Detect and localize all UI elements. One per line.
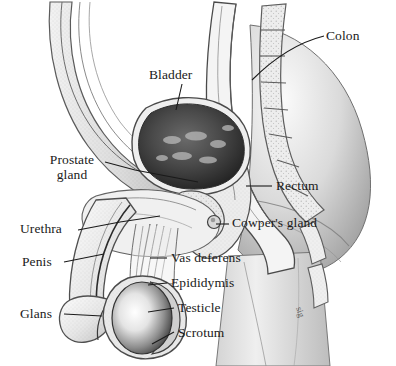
- label-glans: Glans: [20, 307, 52, 321]
- structure-cowpers-gland: [208, 216, 221, 229]
- label-scrotum: Scrotum: [178, 326, 224, 340]
- label-testicle: Testicle: [178, 301, 221, 315]
- label-vas-deferens: Vas deferens: [171, 251, 241, 265]
- label-cowpers-gland: Cowper's gland: [232, 216, 317, 230]
- label-urethra: Urethra: [20, 222, 62, 236]
- label-bladder: Bladder: [149, 68, 192, 82]
- label-epididymis: Epididymis: [171, 276, 234, 290]
- label-colon: Colon: [326, 29, 360, 43]
- label-prostate-gland: Prostate gland: [38, 152, 106, 182]
- structure-testicle: [112, 282, 172, 354]
- label-penis: Penis: [22, 255, 52, 269]
- label-rectum: Rectum: [276, 179, 319, 193]
- anatomical-figure: sig Colon Bladder Prostate gland Rectum …: [0, 0, 396, 366]
